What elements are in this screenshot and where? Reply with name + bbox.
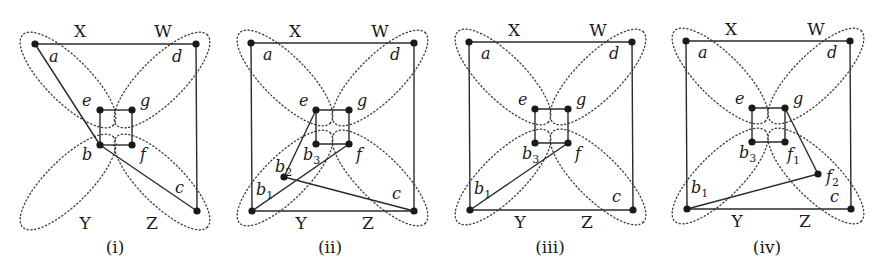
- region-ellipse-Y: [659, 115, 781, 237]
- vertex-label-b1: b1: [691, 178, 708, 200]
- vertex-label-c: c: [392, 184, 401, 203]
- panel-caption: (iii): [535, 237, 565, 257]
- edge-a-b1: [686, 41, 687, 209]
- vertex-subscript-b3: 3: [313, 154, 320, 167]
- vertex-e: [312, 106, 319, 113]
- vertex-b1: [683, 205, 690, 212]
- edge-d-c: [632, 42, 633, 210]
- vertex-f2: [814, 170, 821, 177]
- vertex-label-b: b: [82, 145, 92, 164]
- region-label-Y: Y: [78, 213, 91, 233]
- vertex-label-b1: b1: [474, 179, 491, 201]
- region-ellipse-Z: [319, 117, 441, 239]
- region-label-Y: Y: [513, 212, 526, 232]
- vertex-f: [564, 139, 571, 146]
- region-ellipse-Z: [537, 116, 659, 238]
- vertex-label-c: c: [175, 178, 184, 197]
- vertex-label-b3: b3: [739, 143, 756, 165]
- vertex-c: [629, 206, 636, 213]
- panel-caption: (ii): [318, 237, 342, 257]
- vertex-label-b2: b2: [275, 157, 292, 179]
- region-label-W: W: [807, 19, 825, 39]
- edge-g-f2: [785, 108, 818, 174]
- vertex-subscript-f1: 1: [793, 154, 800, 167]
- vertex-f: [128, 141, 135, 148]
- panel-caption: (iv): [753, 237, 781, 257]
- vertex-g: [345, 106, 352, 113]
- panel-i: adegbfcXWYZ(i): [7, 19, 223, 257]
- vertex-subscript-b1: 1: [266, 189, 273, 202]
- vertex-label-a: a: [263, 45, 273, 64]
- vertex-d: [846, 37, 853, 44]
- vertex-label-b3: b3: [303, 145, 320, 167]
- region-label-W: W: [154, 21, 172, 41]
- vertex-b1: [248, 207, 255, 214]
- region-ellipse-X: [442, 16, 564, 138]
- vertex-label-g: g: [576, 90, 586, 109]
- vertex-subscript-b1: 1: [484, 188, 491, 201]
- vertex-label-a: a: [481, 44, 491, 63]
- vertex-label-a: a: [49, 47, 59, 66]
- region-label-Z: Z: [799, 211, 811, 231]
- vertex-b3: [312, 140, 319, 147]
- vertex-e: [96, 106, 103, 113]
- vertex-label-e: e: [735, 89, 744, 108]
- region-label-Z: Z: [146, 213, 158, 233]
- vertex-label-e: e: [518, 90, 527, 109]
- edge-d-c: [196, 44, 197, 211]
- region-label-X: X: [74, 21, 87, 41]
- panel-iv: adegb3f1f2b1cXWYZ(iv): [659, 15, 877, 257]
- vertex-a: [31, 40, 38, 47]
- region-label-X: X: [508, 20, 521, 40]
- vertex-a: [247, 39, 254, 46]
- region-label-Y: Y: [730, 211, 743, 231]
- vertex-subscript-b2: 2: [285, 166, 292, 179]
- graph-figure: adegbfcXWYZ(i)adegb3fb2b1cXWYZ(ii)adegb3…: [0, 0, 886, 280]
- vertex-label-b3: b3: [522, 144, 539, 166]
- vertex-label-f: f: [574, 144, 584, 163]
- vertex-c: [847, 205, 854, 212]
- panel-caption: (i): [106, 237, 125, 257]
- region-label-W: W: [371, 21, 389, 41]
- vertex-subscript-b1: 1: [701, 187, 708, 200]
- vertex-g: [564, 105, 571, 112]
- vertex-c: [410, 207, 417, 214]
- vertex-a: [682, 37, 689, 44]
- vertex-label-d: d: [609, 44, 619, 63]
- vertex-label-f1: f1: [786, 145, 800, 167]
- region-label-X: X: [725, 19, 738, 39]
- panel-ii: adegb3fb2b1cXWYZ(ii): [224, 17, 441, 257]
- vertex-f: [345, 140, 352, 147]
- region-ellipse-X: [659, 15, 781, 137]
- vertex-b: [96, 141, 103, 148]
- vertex-g: [781, 104, 788, 111]
- vertex-label-d: d: [172, 47, 182, 66]
- vertex-label-g: g: [793, 89, 803, 108]
- vertex-b3: [748, 138, 755, 145]
- region-ellipse-Y: [442, 116, 564, 238]
- vertex-subscript-b3: 3: [749, 152, 756, 165]
- region-label-Z: Z: [362, 213, 374, 233]
- vertex-c: [193, 207, 200, 214]
- vertex-label-e: e: [82, 91, 91, 110]
- vertex-a: [465, 38, 472, 45]
- vertex-subscript-b3: 3: [532, 153, 539, 166]
- vertex-b1: [466, 206, 473, 213]
- vertex-label-d: d: [827, 43, 837, 62]
- region-label-X: X: [289, 21, 302, 41]
- vertex-label-g: g: [357, 91, 367, 110]
- region-label-W: W: [589, 20, 607, 40]
- panel-iii: adegb3fb1cXWYZ(iii): [442, 16, 659, 257]
- vertex-label-b1: b1: [256, 180, 273, 202]
- vertex-d: [410, 39, 417, 46]
- vertex-label-g: g: [140, 91, 150, 110]
- region-ellipse-X: [7, 19, 129, 141]
- region-ellipse-Y: [7, 121, 129, 243]
- region-ellipse-Z: [101, 121, 223, 243]
- vertex-g: [128, 106, 135, 113]
- vertex-e: [531, 105, 538, 112]
- vertex-label-e: e: [299, 91, 308, 110]
- edge-d-c: [850, 41, 851, 209]
- vertex-label-c: c: [830, 187, 839, 206]
- region-ellipse-X: [224, 17, 346, 139]
